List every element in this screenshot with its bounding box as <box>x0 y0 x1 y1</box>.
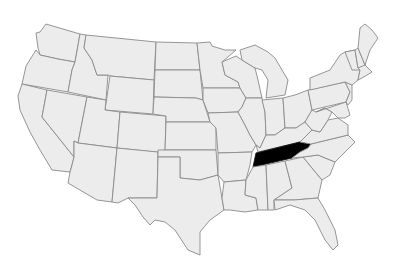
state-massachusetts <box>358 65 372 80</box>
state-arizona <box>68 141 117 202</box>
state-iowa <box>203 88 246 113</box>
state-north-dakota <box>155 42 200 70</box>
state-south-dakota <box>154 70 203 100</box>
state-indiana <box>262 98 285 135</box>
state-new-mexico <box>112 148 158 203</box>
state-colorado <box>117 112 166 153</box>
state-wyoming <box>105 76 154 114</box>
state-kansas <box>165 122 216 150</box>
us-map <box>0 0 397 275</box>
state-florida <box>274 198 338 250</box>
